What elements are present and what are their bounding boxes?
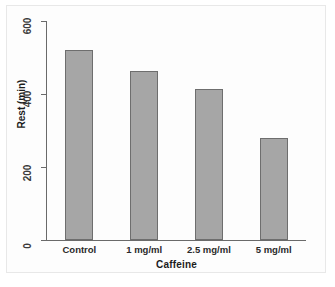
x-tick-labels: Control 1 mg/ml 2.5 mg/ml 5 mg/ml	[47, 243, 306, 259]
bar-control[interactable]	[65, 50, 93, 240]
bar-2p5mgml[interactable]	[195, 89, 223, 241]
y-tick-label-200-text: 200	[22, 165, 34, 182]
y-tick-label-0: 0	[16, 235, 40, 247]
bar-1mgml[interactable]	[130, 71, 158, 240]
x-tick-label-0: Control	[47, 243, 112, 257]
x-axis-line	[46, 240, 306, 241]
y-tick-label-0-text: 0	[22, 243, 34, 249]
y-tick-label-600: 600	[16, 15, 40, 27]
y-tick-label-400: 400	[16, 88, 40, 100]
bar-5mgml[interactable]	[260, 138, 288, 240]
bars-layer	[47, 21, 306, 240]
x-tick-label-3: 5 mg/ml	[241, 243, 306, 257]
x-tick-label-2: 2.5 mg/ml	[177, 243, 242, 257]
chart-figure: Rest (min) 0 200 400 600 Control 1 mg/ml…	[0, 0, 335, 287]
x-axis-title: Caffeine	[47, 259, 306, 270]
x-tick-label-1: 1 mg/ml	[112, 243, 177, 257]
y-tick-label-200: 200	[16, 162, 40, 174]
y-tick-label-400-text: 400	[22, 91, 34, 108]
y-tick-label-600-text: 600	[22, 18, 34, 35]
